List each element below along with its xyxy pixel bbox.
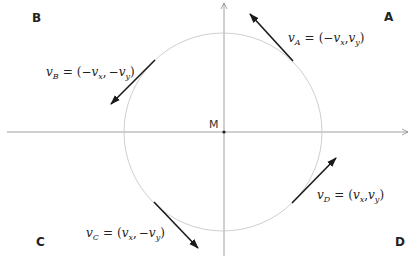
center-label: M [209,118,219,131]
velocity-label-b: vB=(−vx,−vy) [46,65,135,81]
quadrant-label-b: B [32,11,41,25]
separator: , [103,65,107,79]
velocity-diagram: M A B C D vA=(−vx,vy) vB=(−vx,−vy) vC=(v… [0,0,413,259]
vec-sub: B [52,72,59,81]
close-paren: ) [379,188,384,202]
quadrant-label-d: D [395,235,405,249]
equals-sign: = [63,65,73,79]
vec-sub: A [294,38,301,47]
separator: , [133,226,137,240]
velocity-arrow-a [250,14,293,61]
velocity-label-d: vD=(vx,vy) [317,188,384,204]
equals-sign: = [103,226,113,240]
close-paren: ) [160,226,165,240]
quadrant-label-a: A [384,10,394,24]
equals-sign: = [305,31,315,45]
sign: − [323,31,333,45]
sign: − [139,226,149,240]
sign: − [109,65,119,79]
velocity-label-a: vA=(−vx,vy) [288,31,365,47]
velocity-label-c: vC=(vx,−vy) [86,226,165,242]
sign: − [81,65,91,79]
close-paren: ) [130,65,135,79]
quadrant-label-c: C [36,235,45,249]
equals-sign: = [334,188,344,202]
velocity-arrow-c [154,202,198,248]
close-paren: ) [360,31,365,45]
vec-sub: D [323,195,331,204]
vec-sub: C [93,233,99,242]
center-point [222,130,225,133]
